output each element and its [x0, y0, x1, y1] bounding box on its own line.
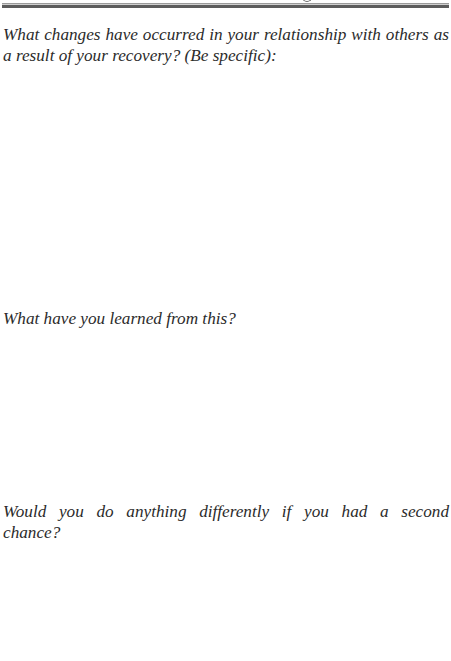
question-relationship-changes: What changes have occurred in your relat… [3, 24, 449, 66]
answer-space-second-chance [3, 546, 449, 656]
answer-space-lessons-learned [3, 332, 449, 492]
header-text-fragment [302, 0, 312, 2]
answer-space-relationship-changes [3, 68, 449, 298]
header-double-rule [2, 3, 449, 8]
question-lessons-learned: What have you learned from this? [3, 308, 449, 329]
question-second-chance: Would you do anything differently if you… [3, 501, 449, 543]
